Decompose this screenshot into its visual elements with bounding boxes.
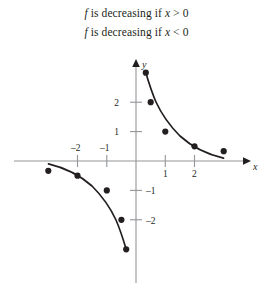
data-point — [221, 148, 227, 154]
statement-1: f is decreasing if x > 0 — [0, 4, 273, 23]
y-axis-arrow — [132, 59, 140, 67]
data-point — [123, 246, 129, 252]
data-point — [104, 187, 110, 193]
x-tick-label-neg2: –2 — [70, 143, 81, 153]
graph-container: x y –2 –1 1 2 — [0, 50, 273, 291]
x-tick-label-2: 2 — [192, 169, 197, 179]
data-point — [143, 70, 149, 76]
x-tick-label-neg1: –1 — [99, 143, 110, 153]
y-axis-label: y — [141, 59, 147, 70]
data-points-positive — [143, 70, 227, 155]
y-tick-label-2: 2 — [114, 98, 119, 108]
x-tick-label-1: 1 — [163, 169, 168, 179]
y-tick-label-neg1: –1 — [145, 186, 156, 196]
curve-negative-branch — [49, 164, 127, 250]
data-point — [148, 99, 154, 105]
data-point — [118, 217, 124, 223]
curve-positive-branch — [146, 73, 224, 159]
y-axis: y — [132, 59, 147, 283]
y-tick-label-neg2: –2 — [145, 216, 156, 226]
x-axis-label: x — [252, 161, 258, 172]
y-tick-label-1: 1 — [114, 127, 119, 137]
hyperbola-graph: x y –2 –1 1 2 — [0, 50, 273, 291]
data-point — [45, 168, 51, 174]
data-point — [191, 143, 197, 149]
figure-page: f is decreasing if x > 0 f is decreasing… — [0, 0, 273, 291]
data-point — [74, 173, 80, 179]
statement-list: f is decreasing if x > 0 f is decreasing… — [0, 4, 273, 42]
data-points-negative — [45, 168, 129, 253]
statement-2: f is decreasing if x < 0 — [0, 23, 273, 42]
data-point — [162, 129, 168, 135]
x-axis-arrow — [243, 157, 251, 165]
